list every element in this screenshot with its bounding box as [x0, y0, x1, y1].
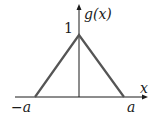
x-axis-label: x [140, 80, 148, 96]
left-tick-label: −a [11, 99, 31, 115]
y-axis-label: g(x) [84, 6, 112, 22]
right-tick-label: a [127, 99, 135, 115]
y-axis-arrow-icon [77, 4, 82, 10]
triangle-function-diagram: g(x) 1 x −a a [0, 0, 155, 120]
peak-label: 1 [64, 20, 73, 36]
